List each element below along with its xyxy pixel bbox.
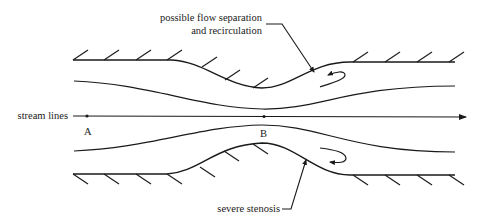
- point-b-marker: [262, 115, 265, 118]
- separation-leader-line: [266, 24, 314, 72]
- stenosis-label: severe stenosis: [217, 203, 280, 214]
- stream-lines-label: stream lines: [18, 110, 68, 121]
- lower-recirculation-eddy-icon: [320, 148, 346, 163]
- stenosis-leader-line: [282, 160, 306, 209]
- center-streamline: [73, 116, 466, 117]
- separation-label-line1: possible flow separation: [160, 12, 263, 23]
- point-a-marker: [85, 114, 88, 117]
- upper-wall-hatching: [73, 50, 464, 88]
- point-a-label: A: [84, 126, 92, 137]
- stenosis-flow-diagram: possible flow separation and recirculati…: [0, 0, 479, 217]
- upper-streamline: [74, 81, 455, 109]
- point-b-label: B: [260, 128, 267, 139]
- separation-label-line2: and recirculation: [191, 25, 263, 36]
- upper-recirculation-eddy-icon: [320, 72, 345, 87]
- upper-vessel-wall: [73, 50, 464, 88]
